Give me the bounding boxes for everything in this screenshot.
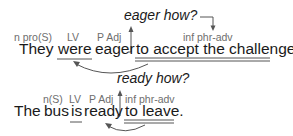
word-is: is [71,102,82,120]
infinitive-phrase-1: to accept the challenge. [136,40,293,58]
word-the: The [14,102,41,120]
word-bus: bus [44,102,69,120]
question-ready-how: ready how? [117,70,189,86]
word-were: were [58,40,92,58]
question-eager-how: eager how? [124,7,197,23]
word-they: They [19,40,53,58]
word-eager: eager [95,40,135,58]
word-ready: ready [84,102,123,120]
infinitive-phrase-2: to leave. [125,102,184,120]
